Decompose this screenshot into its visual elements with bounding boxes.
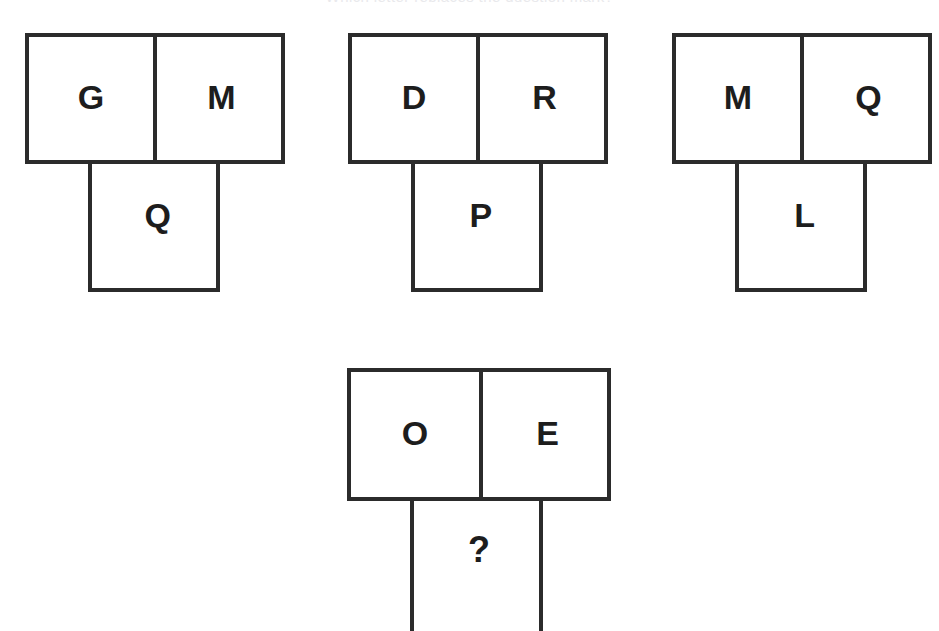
puzzle-caption: Which letter replaces the question mark? <box>0 0 939 2</box>
tromino-group-3: M Q L <box>672 33 934 295</box>
group-3-bottom-letter: L <box>794 198 815 232</box>
group-2-top-left-letter: D <box>402 80 427 114</box>
group-3-top-right-letter: Q <box>855 80 881 114</box>
group-1-top-left-cell: G <box>25 33 157 164</box>
group-1-top-right-letter: M <box>207 80 235 114</box>
answer-question-mark: ? <box>468 532 490 568</box>
group-2-top-left-cell: D <box>348 33 480 164</box>
group-3-top-right-cell: Q <box>800 33 932 164</box>
group-4-top-left-letter: O <box>402 416 428 450</box>
group-1-bottom-cell: Q <box>88 160 220 292</box>
group-4-bottom-cell-answer[interactable]: ? <box>410 497 543 631</box>
tromino-group-4-answer: O E ? <box>347 368 609 630</box>
group-1-top-left-letter: G <box>78 80 104 114</box>
group-2-bottom-letter: P <box>469 198 492 232</box>
group-4-top-left-cell: O <box>347 368 483 501</box>
group-3-top-left-cell: M <box>672 33 804 164</box>
group-4-top-right-letter: E <box>536 416 559 450</box>
tromino-group-1: G M Q <box>25 33 287 295</box>
group-1-top-right-cell: M <box>153 33 285 164</box>
group-1-bottom-letter: Q <box>144 198 170 232</box>
group-2-bottom-cell: P <box>411 160 543 292</box>
group-4-top-right-cell: E <box>479 368 611 501</box>
group-3-bottom-cell: L <box>735 160 867 292</box>
group-3-top-left-letter: M <box>724 80 752 114</box>
group-2-top-right-letter: R <box>532 80 557 114</box>
tromino-group-2: D R P <box>348 33 610 295</box>
group-2-top-right-cell: R <box>476 33 608 164</box>
